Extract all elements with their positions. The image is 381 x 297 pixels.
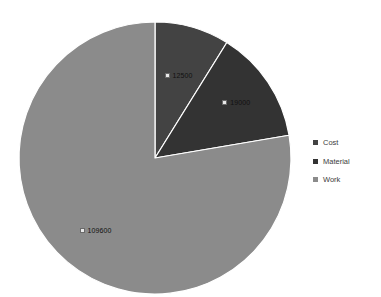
chart-legend: Cost Material Work	[313, 139, 379, 184]
legend-swatch-icon	[313, 177, 318, 182]
legend-item-cost[interactable]: Cost	[313, 139, 379, 147]
pie-slices	[19, 22, 291, 294]
legend-item-label: Cost	[323, 139, 338, 147]
pie-chart: 12500 19000 109600 Cost Material Work	[0, 0, 381, 297]
data-label-cost: 12500	[165, 72, 193, 79]
legend-item-label: Material	[323, 158, 350, 166]
data-label-marker-icon	[222, 100, 227, 105]
legend-item-material[interactable]: Material	[313, 158, 379, 166]
data-label-marker-icon	[80, 228, 85, 233]
legend-item-label: Work	[323, 176, 340, 184]
legend-item-work[interactable]: Work	[313, 176, 379, 184]
legend-swatch-icon	[313, 140, 318, 145]
data-label-material: 19000	[222, 99, 250, 106]
legend-swatch-icon	[313, 159, 318, 164]
data-label-value: 19000	[230, 99, 250, 106]
data-label-value: 12500	[173, 72, 193, 79]
data-label-value: 109600	[88, 227, 112, 234]
data-label-marker-icon	[165, 73, 170, 78]
data-label-work: 109600	[80, 227, 112, 234]
